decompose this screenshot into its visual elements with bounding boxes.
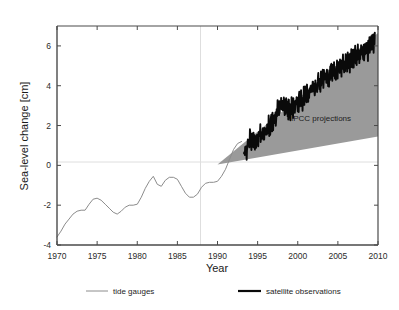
legend-label-satellite-observations: satellite observations	[266, 287, 341, 296]
x-axis-title: Year	[206, 262, 229, 274]
x-tick-label: 2000	[288, 251, 307, 261]
legend-label-tide-gauges: tide gauges	[113, 287, 154, 296]
x-tick-label: 2010	[369, 251, 388, 261]
y-tick-label: 6	[46, 41, 51, 51]
y-tick-label: 4	[46, 81, 51, 91]
y-tick-label: 0	[46, 160, 51, 170]
x-tick-label: 1985	[168, 251, 187, 261]
figure-root: 197019751980198519901995200020052010-4-2…	[0, 0, 399, 310]
y-axis-title: Sea-level change [cm]	[18, 82, 30, 191]
sea-level-chart: 197019751980198519901995200020052010-4-2…	[0, 0, 399, 310]
x-tick-label: 1980	[128, 251, 147, 261]
y-tick-label: -4	[43, 240, 51, 250]
x-tick-label: 1995	[248, 251, 267, 261]
y-tick-label: -2	[43, 200, 51, 210]
y-tick-label: 2	[46, 121, 51, 131]
x-tick-label: 1970	[48, 251, 67, 261]
x-tick-label: 2005	[328, 251, 347, 261]
x-tick-label: 1975	[88, 251, 107, 261]
ipcc-projections-annotation: IPCC projections	[291, 114, 351, 123]
chart-background	[0, 0, 399, 310]
x-tick-label: 1990	[208, 251, 227, 261]
